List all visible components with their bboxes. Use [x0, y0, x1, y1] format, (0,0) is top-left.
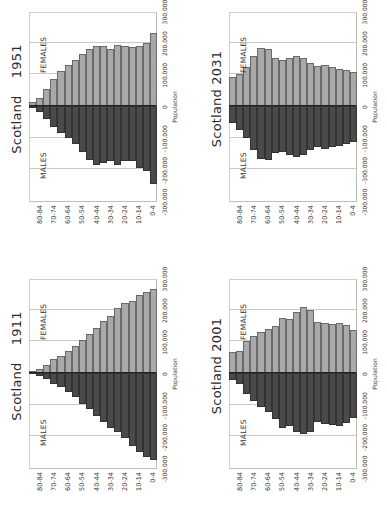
male-bar: [307, 373, 314, 432]
age-tick-label: 70-74: [250, 205, 258, 224]
population-tick-label: -100,000: [161, 125, 168, 152]
gridline: [229, 168, 356, 169]
female-bar: [321, 323, 328, 373]
pyramid-1951: Scotland 1951MALESFEMALES80-8470-7460-64…: [5, 0, 200, 254]
male-bar: [57, 373, 64, 387]
gridline: [229, 309, 356, 310]
female-bar: [236, 74, 243, 106]
female-bar: [150, 33, 157, 106]
male-bar: [114, 373, 121, 432]
male-bar: [343, 106, 350, 144]
male-bar: [243, 106, 250, 138]
population-tick-label: -100,000: [361, 125, 368, 152]
females-label: FEMALES: [39, 304, 48, 340]
male-bar: [329, 373, 336, 425]
female-bar: [265, 329, 272, 373]
female-bar: [286, 319, 293, 373]
male-bar: [136, 373, 143, 452]
population-tick-label: 100,000: [161, 63, 168, 88]
female-bar: [279, 60, 286, 106]
male-bar: [143, 106, 150, 171]
female-bar: [314, 66, 321, 106]
x-axis-title: Population: [171, 91, 178, 123]
male-bar: [43, 373, 50, 379]
age-tick-label: 40-44: [293, 205, 301, 224]
male-bar: [243, 373, 250, 394]
female-bar: [350, 72, 357, 106]
female-bar: [272, 326, 279, 373]
zero-axis: [29, 105, 156, 106]
pyramid-2001: Scotland 2001MALESFEMALES80-8470-7460-64…: [205, 266, 387, 521]
age-tick-label: 50-54: [278, 472, 286, 491]
female-bar: [136, 46, 143, 106]
age-tick-label: 50-54: [278, 205, 286, 224]
female-bar: [321, 65, 328, 106]
age-tick-label: 30-34: [107, 472, 115, 491]
male-bar: [50, 373, 57, 384]
population-tick-label: -100,000: [161, 392, 168, 419]
female-bar: [79, 340, 86, 373]
male-bar: [279, 373, 286, 428]
males-label: MALES: [39, 152, 48, 179]
chart-title: Scotland 1911: [9, 271, 24, 461]
zero-axis: [229, 372, 356, 373]
female-bar: [114, 45, 121, 106]
female-bar: [57, 71, 64, 106]
male-bar: [79, 106, 86, 152]
population-tick-label: 300,000: [361, 267, 368, 292]
age-tick-label: 80-84: [236, 472, 244, 491]
male-bar: [293, 106, 300, 157]
population-tick-label: 300,000: [361, 0, 368, 24]
population-tick-label: 100,000: [361, 330, 368, 355]
population-tick-label: 100,000: [361, 63, 368, 88]
population-tick-label: 100,000: [161, 330, 168, 355]
female-bar: [307, 63, 314, 106]
females-label: FEMALES: [39, 37, 48, 73]
female-bar: [243, 341, 250, 373]
female-bar: [329, 67, 336, 106]
age-tick-label: 20-24: [121, 472, 129, 491]
male-bar: [72, 106, 79, 144]
male-bar: [350, 373, 357, 418]
female-bar: [300, 58, 307, 106]
male-bar: [129, 373, 136, 446]
female-bar: [107, 316, 114, 373]
female-bar: [50, 359, 57, 373]
population-tick-label: -200,000: [361, 424, 368, 451]
female-bar: [93, 46, 100, 106]
population-tick-label: 300,000: [161, 267, 168, 292]
female-bar: [236, 351, 243, 373]
male-bar: [336, 106, 343, 146]
males-label: MALES: [239, 419, 248, 446]
male-bar: [150, 106, 157, 184]
female-bar: [229, 78, 236, 107]
male-bar: [257, 106, 264, 159]
female-bar: [100, 46, 107, 106]
population-tick-label: 200,000: [361, 298, 368, 323]
male-bar: [57, 106, 64, 133]
population-tick-label: 0: [361, 105, 368, 109]
female-bar: [50, 79, 57, 106]
population-tick-label: 0: [361, 372, 368, 376]
female-bar: [129, 47, 136, 106]
female-bar: [136, 295, 143, 373]
age-tick-label: 80-84: [236, 205, 244, 224]
female-bar: [257, 332, 264, 373]
population-tick-label: -200,000: [161, 157, 168, 184]
male-bar: [93, 373, 100, 416]
population-tick-label: 200,000: [161, 31, 168, 56]
age-tick-label: 0-4: [349, 205, 357, 216]
female-bar: [293, 312, 300, 373]
age-tick-label: 10-14: [335, 205, 343, 224]
age-tick-label: 30-34: [307, 205, 315, 224]
female-bar: [79, 54, 86, 106]
male-bar: [86, 106, 93, 160]
female-bar: [336, 69, 343, 106]
gridline: [29, 42, 156, 43]
age-tick-label: 0-4: [349, 472, 357, 483]
zero-axis: [29, 372, 156, 373]
age-tick-label: 10-14: [135, 205, 143, 224]
male-bar: [265, 373, 272, 412]
age-tick-label: 20-24: [121, 205, 129, 224]
male-bar: [272, 106, 279, 153]
